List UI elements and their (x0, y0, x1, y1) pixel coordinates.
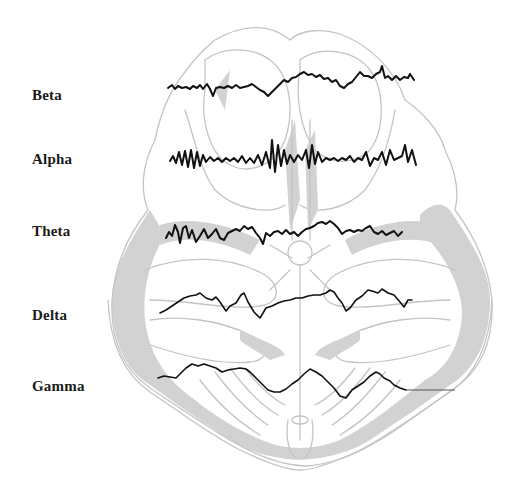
theta-label: Theta (32, 223, 71, 240)
gamma-label: Gamma (32, 378, 85, 395)
brain-illustration (0, 0, 527, 498)
beta-label: Beta (32, 87, 62, 104)
delta-label: Delta (32, 307, 67, 324)
alpha-label: Alpha (32, 151, 72, 168)
brain-outline (108, 28, 492, 470)
brain-wave-figure: Beta Alpha Theta Delta Gamma (0, 0, 527, 498)
